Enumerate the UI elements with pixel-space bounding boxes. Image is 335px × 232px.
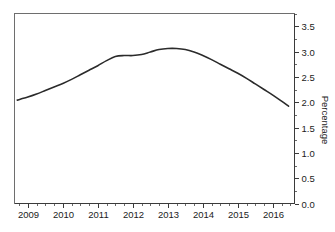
x-tick-label-2011: 2011 [88, 209, 108, 220]
y-tick-label-0.0: 0.0 [302, 199, 315, 210]
x-tick-label-2009: 2009 [18, 209, 39, 220]
y-tick-label-1.0: 1.0 [302, 148, 315, 159]
x-tick-label-2014: 2014 [193, 209, 214, 220]
y-tick-label-1.5: 1.5 [302, 123, 315, 134]
x-tick-label-2012: 2012 [123, 209, 144, 220]
y-tick-label-0.5: 0.5 [302, 173, 315, 184]
y-axis-title: Percentage [320, 96, 331, 145]
x-tick-label-2013: 2013 [158, 209, 179, 220]
y-tick-label-2.0: 2.0 [302, 97, 315, 108]
x-tick-label-2010: 2010 [53, 209, 74, 220]
y-tick-label-3.0: 3.0 [302, 47, 315, 58]
chart-figure: 0.00.51.01.52.02.53.03.5 200920102011201… [0, 0, 335, 232]
chart-background [0, 0, 335, 232]
x-tick-label-2016: 2016 [263, 209, 284, 220]
y-tick-label-2.5: 2.5 [302, 72, 315, 83]
line-chart-canvas: 0.00.51.01.52.02.53.03.5 200920102011201… [0, 0, 335, 232]
y-tick-label-3.5: 3.5 [302, 21, 315, 32]
x-tick-label-2015: 2015 [228, 209, 249, 220]
